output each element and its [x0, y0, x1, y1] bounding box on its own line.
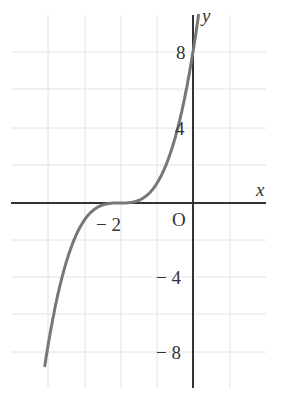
graph-canvas	[0, 0, 281, 405]
tick-label-y4: 4	[175, 119, 185, 138]
tick-label-yneg4: − 4	[156, 268, 181, 287]
tick-label-yneg8: − 8	[156, 343, 181, 362]
x-axis-label: x	[256, 180, 264, 199]
tick-label-xneg2: − 2	[96, 215, 121, 234]
tick-label-y8: 8	[176, 43, 186, 62]
origin-label: O	[172, 210, 186, 229]
y-axis-label: y	[202, 6, 210, 25]
curve	[45, 15, 199, 366]
